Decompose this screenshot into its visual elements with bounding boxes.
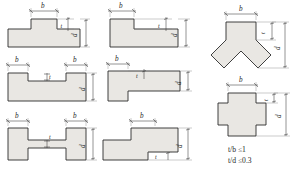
shape-lateral-tee-section: b t d <box>106 55 192 101</box>
label-t: t <box>49 134 51 140</box>
label-d: d <box>274 46 282 50</box>
label-b: b <box>239 5 243 13</box>
label-d: d <box>71 33 79 37</box>
cross-plus-outline <box>218 93 266 136</box>
constraint-ratio-t-d: t/d ≤0.3 <box>228 156 252 165</box>
label-b: b <box>15 56 19 64</box>
label-b: b <box>239 76 243 84</box>
diagram-canvas: b t d b t d <box>0 0 298 175</box>
label-d: d <box>275 114 283 118</box>
label-b: b <box>41 2 45 10</box>
label-b: b <box>15 112 19 120</box>
label-t: t <box>61 23 63 29</box>
shape-angle-section: b t d <box>108 2 190 47</box>
shape-stepped-zee-section: b t d <box>103 112 192 160</box>
label-b: b <box>115 55 119 63</box>
angle-section-outline <box>110 19 178 47</box>
label-b: b <box>140 112 144 120</box>
label-d: d <box>79 87 87 91</box>
tee-section-outline <box>8 19 80 47</box>
label-t: t <box>155 154 157 160</box>
shape-cross-section-plus: b t d <box>218 76 290 136</box>
label-b: b <box>73 112 77 120</box>
label-d: d <box>176 144 184 148</box>
stepped-zee-outline <box>103 128 178 160</box>
shape-i-beam-section: b b t d <box>6 112 97 160</box>
label-d: d <box>175 81 183 85</box>
shape-tee-section: b t d <box>8 2 90 47</box>
constraint-ratio-t-b: t/b ≤1 <box>228 145 246 154</box>
wye-joint-outline <box>211 22 271 68</box>
constraints-block: t/b ≤1 t/d ≤0.3 <box>228 145 252 165</box>
label-b: b <box>119 2 123 10</box>
label-d: d <box>79 144 87 148</box>
label-t: t <box>158 23 160 29</box>
shape-channel-section: b b t d <box>6 56 97 101</box>
label-t: t <box>49 74 51 80</box>
label-b: b <box>73 56 77 64</box>
label-d: d <box>171 33 179 37</box>
shape-wye-joint-section: b t d <box>211 5 289 68</box>
label-t: t <box>260 32 266 34</box>
label-t: t <box>263 99 269 101</box>
